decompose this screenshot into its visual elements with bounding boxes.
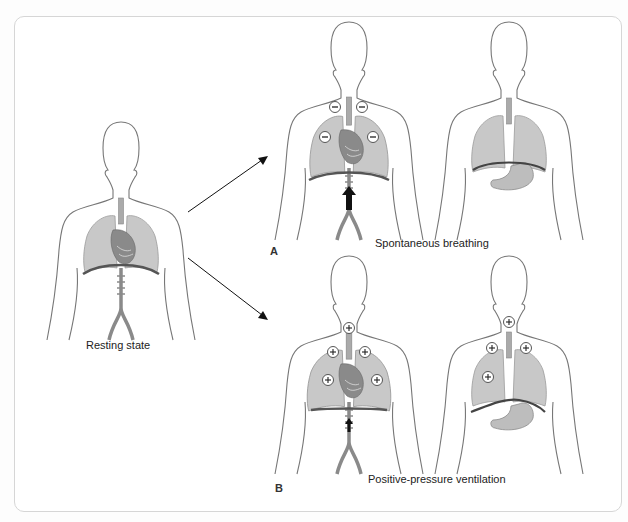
- negative-pressure-marker: [357, 102, 368, 113]
- positive-pressure-marker: [323, 375, 334, 386]
- positive-pressure-marker: [504, 317, 515, 328]
- negative-pressure-marker: [368, 132, 379, 143]
- negative-pressure-marker: [330, 102, 341, 113]
- figure-b-stomach-view: [435, 256, 583, 474]
- arrow-to-a: [188, 156, 268, 212]
- positive-pressure-marker: [372, 375, 383, 386]
- panel-b-letter: B: [275, 482, 283, 494]
- up-arrow-icon: [342, 186, 356, 210]
- figure-a-inspiration: [275, 22, 423, 240]
- positive-pressure-marker: [328, 347, 339, 358]
- anatomy-diagram: [0, 0, 628, 522]
- figure-b-inspiration: [275, 256, 423, 474]
- positive-pressure-marker: [344, 323, 355, 334]
- up-arrow-icon: [345, 418, 353, 432]
- positive-pressure-marker: [487, 343, 498, 354]
- positive-pressure-marker: [483, 372, 494, 383]
- figure-resting: [47, 122, 195, 340]
- figure-a-stomach-view: [435, 22, 583, 240]
- positive-pressure-marker: [521, 343, 532, 354]
- positive-pressure-marker: [360, 347, 371, 358]
- panel-b-caption: Positive-pressure ventilation: [368, 473, 506, 485]
- resting-state-label: Resting state: [86, 339, 150, 351]
- arrow-to-b: [188, 258, 268, 320]
- panel-a-caption: Spontaneous breathing: [375, 237, 489, 249]
- negative-pressure-marker: [320, 132, 331, 143]
- panel-a-letter: A: [270, 245, 278, 257]
